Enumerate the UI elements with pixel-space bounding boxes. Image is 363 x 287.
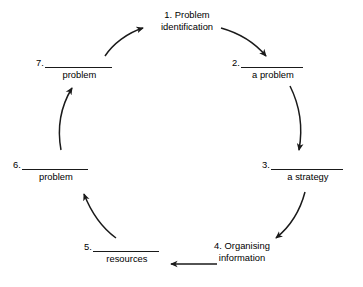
cycle-step-2-caption: a problem — [232, 68, 303, 80]
cycle-step-4-line1: 4. Organising — [204, 240, 280, 252]
cycle-step-5-blank-row: 5. — [84, 240, 159, 252]
cycle-step-1-line1: 1. Problem — [149, 9, 225, 21]
cycle-step-7-blank-line[interactable] — [45, 58, 112, 68]
cycle-step-6-blank-line[interactable] — [22, 160, 88, 170]
cycle-step-7-number: 7. — [36, 57, 45, 68]
cycle-step-6-blank-row: 6. — [13, 158, 88, 170]
arrow-7-to-1 — [105, 28, 143, 56]
cycle-step-3-caption: a strategy — [262, 170, 343, 182]
cycle-step-3-number: 3. — [262, 159, 271, 170]
cycle-step-7-blank-row: 7. — [36, 56, 112, 68]
cycle-step-1-line2: identification — [149, 21, 225, 33]
cycle-step-7: 7. problem — [36, 56, 112, 80]
cycle-step-2-blank-line[interactable] — [241, 58, 303, 68]
arrow-2-to-3 — [290, 86, 301, 150]
cycle-step-3-blank-line[interactable] — [271, 160, 343, 170]
cycle-step-7-caption: problem — [36, 68, 112, 80]
cycle-step-1: 1. Problem identification — [149, 9, 225, 32]
arrow-layer — [0, 0, 363, 287]
cycle-step-2-number: 2. — [232, 57, 241, 68]
cycle-step-4-line2: information — [204, 252, 280, 264]
cycle-step-3: 3. a strategy — [262, 158, 343, 182]
arrow-3-to-4 — [276, 192, 305, 238]
arrow-1-to-2 — [221, 28, 266, 56]
cycle-step-5-number: 5. — [84, 241, 93, 252]
cycle-step-3-blank-row: 3. — [262, 158, 343, 170]
cycle-step-6-caption: problem — [13, 170, 88, 182]
arrow-5-to-6 — [84, 194, 116, 238]
cycle-step-2-blank-row: 2. — [232, 56, 303, 68]
cycle-step-6: 6. problem — [13, 158, 88, 182]
cycle-step-2: 2. a problem — [232, 56, 303, 80]
cycle-step-5: 5. resources — [84, 240, 159, 264]
cycle-step-5-blank-line[interactable] — [93, 242, 159, 252]
problem-solving-cycle-diagram: 1. Problem identification 2. a problem 3… — [0, 0, 363, 287]
cycle-step-4: 4. Organising information — [204, 240, 280, 263]
cycle-step-5-caption: resources — [84, 252, 159, 264]
arrow-6-to-7 — [59, 88, 72, 150]
cycle-step-6-number: 6. — [13, 159, 22, 170]
